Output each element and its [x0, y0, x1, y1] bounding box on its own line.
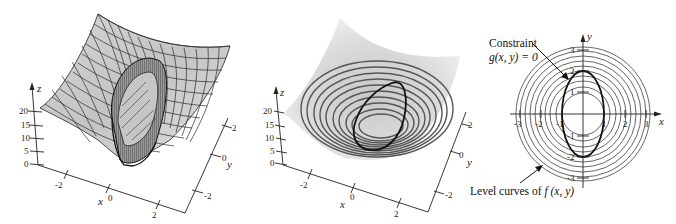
svg-text:10: 10: [21, 133, 31, 143]
svg-text:x: x: [339, 198, 345, 210]
svg-text:z: z: [36, 82, 42, 94]
svg-text:1: 1: [602, 119, 607, 129]
svg-text:y: y: [466, 156, 472, 168]
svg-text:3: 3: [644, 119, 649, 129]
svg-text:-1: -1: [567, 131, 575, 141]
svg-text:5: 5: [270, 146, 275, 156]
svg-text:2: 2: [570, 66, 575, 76]
svg-text:0: 0: [350, 192, 355, 202]
svg-text:2: 2: [623, 119, 628, 129]
z-axis-arrow: [30, 82, 35, 90]
y-axis-arrow: [581, 34, 586, 42]
svg-text:2: 2: [394, 209, 399, 219]
svg-text:15: 15: [21, 120, 31, 130]
svg-text:x: x: [658, 115, 664, 127]
svg-text:10: 10: [265, 133, 275, 143]
right-panel-contour-plot: y x 3 2 1 -1 -2 -3 -3 -2 -1 1 2 3 Constr…: [470, 30, 664, 198]
svg-text:15: 15: [265, 120, 275, 130]
svg-text:z: z: [279, 86, 285, 98]
svg-text:-2: -2: [204, 191, 212, 201]
svg-text:y: y: [586, 30, 592, 42]
svg-text:-3: -3: [514, 119, 522, 129]
level-curves-annotation: Level curves of f (x, y): [470, 165, 574, 198]
svg-text:20: 20: [19, 106, 29, 116]
svg-text:Constraint: Constraint: [489, 37, 538, 49]
z-axis-arrow: [274, 86, 279, 94]
svg-text:2: 2: [232, 123, 237, 133]
svg-text:3: 3: [570, 45, 575, 55]
svg-text:x: x: [97, 195, 103, 207]
svg-text:0: 0: [108, 193, 113, 203]
svg-text:-2: -2: [535, 119, 543, 129]
svg-text:2: 2: [468, 120, 473, 130]
svg-text:Level curves of f (x, y): Level curves of f (x, y): [470, 185, 574, 198]
svg-text:2: 2: [152, 210, 157, 220]
svg-text:-2: -2: [55, 180, 63, 190]
svg-text:y: y: [226, 158, 232, 170]
svg-text:20: 20: [263, 106, 273, 116]
middle-panel-surface-with-level-curves: z 20 15 10 5 0 -2 0 2 x -2 0 2 y: [263, 18, 473, 219]
svg-text:0: 0: [24, 159, 29, 169]
svg-text:g(x, y) = 0: g(x, y) = 0: [489, 51, 538, 64]
shaded-paraboloid-surface: [283, 18, 460, 160]
svg-text:-2: -2: [300, 180, 308, 190]
svg-text:1: 1: [570, 87, 575, 97]
svg-text:-2: -2: [567, 152, 575, 162]
svg-text:0: 0: [270, 158, 275, 168]
left-panel-surface-plot: z 20 15 10 5 0 -2 0 2 x -2 0 2 y: [19, 14, 237, 220]
svg-text:5: 5: [24, 146, 29, 156]
svg-text:0: 0: [459, 150, 464, 160]
svg-text:-3: -3: [567, 173, 575, 183]
figure-canvas: z 20 15 10 5 0 -2 0 2 x -2 0 2 y: [0, 0, 676, 224]
svg-text:-1: -1: [556, 119, 564, 129]
svg-text:-2: -2: [445, 190, 453, 200]
